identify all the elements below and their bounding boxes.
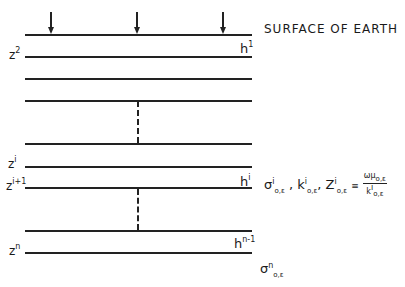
- surface-line: [25, 34, 252, 36]
- h1-label: h1: [240, 41, 253, 55]
- surface-label: SURFACE OF EARTH: [264, 22, 398, 36]
- impedance-fraction: ωμo,ε kio,ε: [363, 172, 387, 199]
- hn1-label: hn-1: [234, 236, 255, 250]
- layer-boundary-zn: [25, 252, 252, 254]
- z2-label: z2: [9, 47, 20, 61]
- continuation-dash: [137, 189, 139, 230]
- layer-boundary: [25, 230, 252, 232]
- layer-i-parameters: σio,ε , kio,ε, Zio,ε ≡ ωμo,ε kio,ε: [264, 172, 387, 199]
- zi-label: zi: [8, 156, 17, 170]
- continuation-dash: [137, 101, 139, 143]
- layer-boundary-z2: [25, 56, 252, 58]
- half-space-conductivity: σno,ε: [260, 261, 284, 279]
- layer-boundary-zi: [25, 166, 252, 168]
- zi1-label: zi+1: [6, 178, 26, 192]
- hi-label: hi: [240, 174, 250, 188]
- zn-label: zn: [9, 243, 20, 257]
- layer-boundary: [25, 78, 252, 80]
- layer-boundary: [25, 143, 252, 145]
